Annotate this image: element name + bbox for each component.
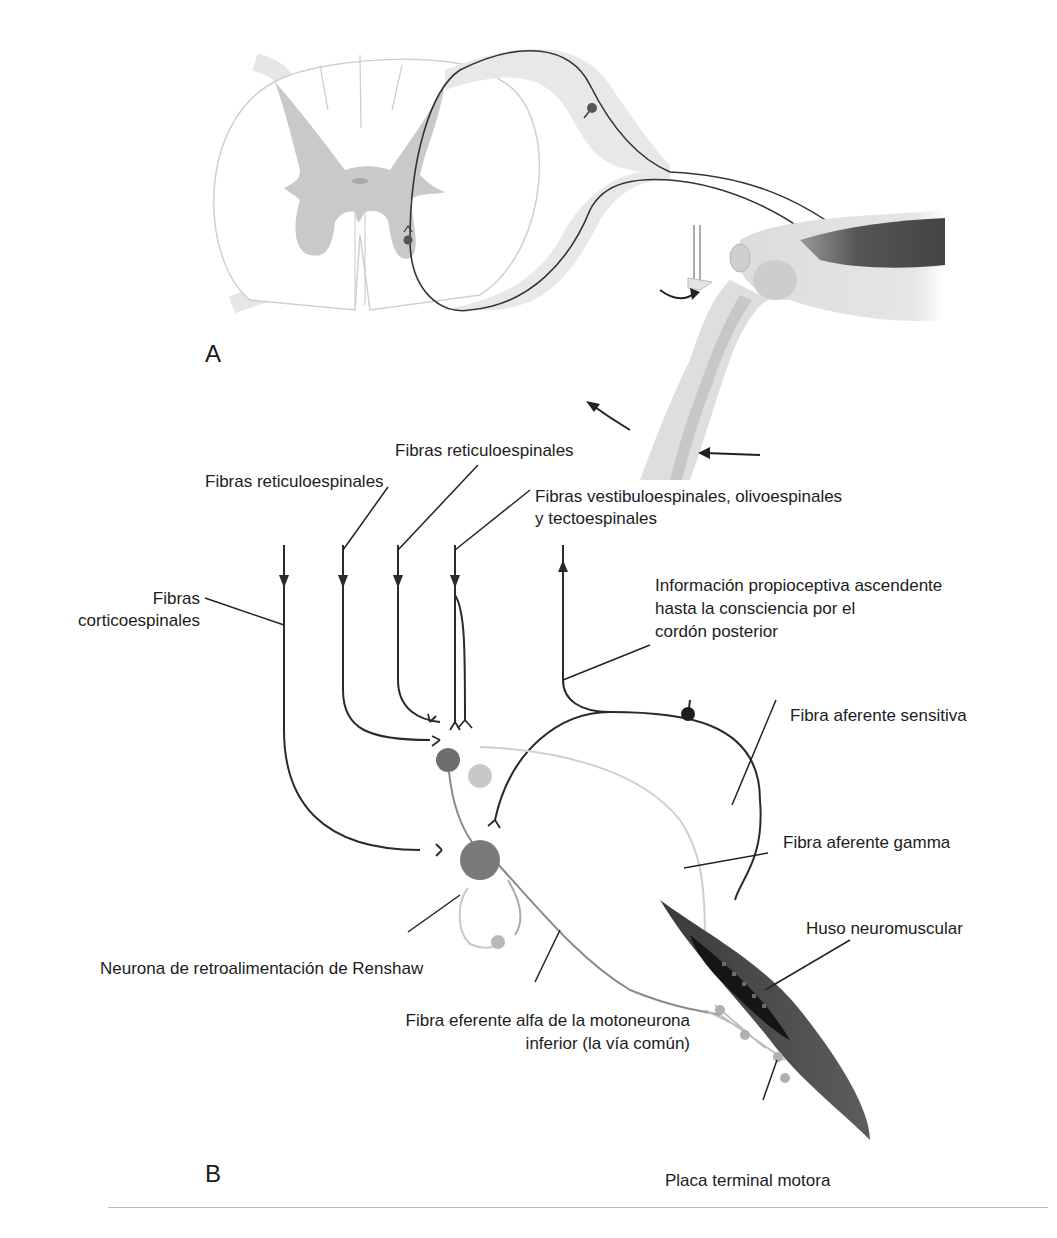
label-vestibuloespinales-line1: Fibras vestibuloespinales, olivoespinale… bbox=[535, 486, 842, 507]
label-placa-terminal-motora: Placa terminal motora bbox=[665, 1170, 830, 1191]
label-fibra-aferente-sensitiva: Fibra aferente sensitiva bbox=[790, 705, 967, 726]
interneuron-dark bbox=[436, 748, 460, 772]
renshaw-cell bbox=[491, 935, 505, 949]
label-vestibuloespinales-line2: y tectoespinales bbox=[535, 508, 657, 529]
reflex-arc-figure: A B Fibras reticuloespinales Fibras reti… bbox=[0, 0, 1057, 1238]
gamma-motoneuron bbox=[468, 764, 492, 788]
label-fibra-eferente-alfa-line2: inferior (la vía común) bbox=[330, 1033, 690, 1054]
label-fibra-aferente-gamma: Fibra aferente gamma bbox=[783, 832, 950, 853]
label-huso-neuromuscular: Huso neuromuscular bbox=[806, 918, 963, 939]
panel-label-a: A bbox=[205, 340, 221, 368]
label-fibra-eferente-alfa-line1: Fibra eferente alfa de la motoneurona bbox=[330, 1010, 690, 1031]
label-reticuloespinales-1: Fibras reticuloespinales bbox=[205, 471, 384, 492]
label-corticoespinales-line1: Fibras bbox=[100, 588, 200, 609]
knee-leg-illustration bbox=[586, 210, 945, 480]
alpha-motoneuron bbox=[460, 840, 500, 880]
label-propioceptiva-line2: hasta la consciencia por el bbox=[655, 598, 855, 619]
label-reticuloespinales-2: Fibras reticuloespinales bbox=[395, 440, 574, 461]
label-propioceptiva-line3: cordón posterior bbox=[655, 621, 778, 642]
label-neurona-renshaw: Neurona de retroalimentación de Renshaw bbox=[100, 958, 423, 979]
panel-label-b: B bbox=[205, 1160, 221, 1188]
label-corticoespinales-line2: corticoespinales bbox=[60, 610, 200, 631]
bottom-divider bbox=[108, 1207, 1048, 1208]
label-propioceptiva-line1: Información propioceptiva ascendente bbox=[655, 575, 942, 596]
sensory-ganglion-soma bbox=[681, 707, 695, 721]
